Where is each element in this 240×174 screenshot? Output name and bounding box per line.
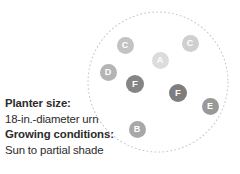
plant-marker-label: A xyxy=(157,56,164,65)
plant-marker-d[interactable]: D xyxy=(100,64,117,81)
plant-marker-f[interactable]: F xyxy=(169,84,187,102)
plant-marker-label: E xyxy=(207,102,213,111)
plant-marker-label: B xyxy=(134,125,141,134)
plant-marker-c[interactable]: C xyxy=(182,35,199,52)
plant-marker-label: C xyxy=(122,41,129,50)
plant-marker-b[interactable]: B xyxy=(129,121,146,138)
plant-marker-c[interactable]: C xyxy=(117,37,134,54)
plant-marker-e[interactable]: E xyxy=(202,98,219,115)
growing-conditions-value: Sun to partial shade xyxy=(5,142,117,158)
plant-marker-a[interactable]: A xyxy=(152,52,169,69)
plant-marker-label: F xyxy=(132,79,138,89)
plant-marker-label: D xyxy=(105,68,112,77)
plant-marker-label: F xyxy=(175,88,181,98)
planter-size-heading: Planter size: xyxy=(5,96,117,111)
caption-block: Planter size: 18-in.-diameter urn Growin… xyxy=(5,96,117,158)
plant-marker-f[interactable]: F xyxy=(126,75,144,93)
planter-size-value: 18-in.-diameter urn xyxy=(5,111,117,127)
growing-conditions-heading: Growing conditions: xyxy=(5,127,117,142)
planting-plan-screen: CCADFFEB Planter size: 18-in.-diameter u… xyxy=(0,0,240,174)
plant-marker-label: C xyxy=(187,39,194,48)
